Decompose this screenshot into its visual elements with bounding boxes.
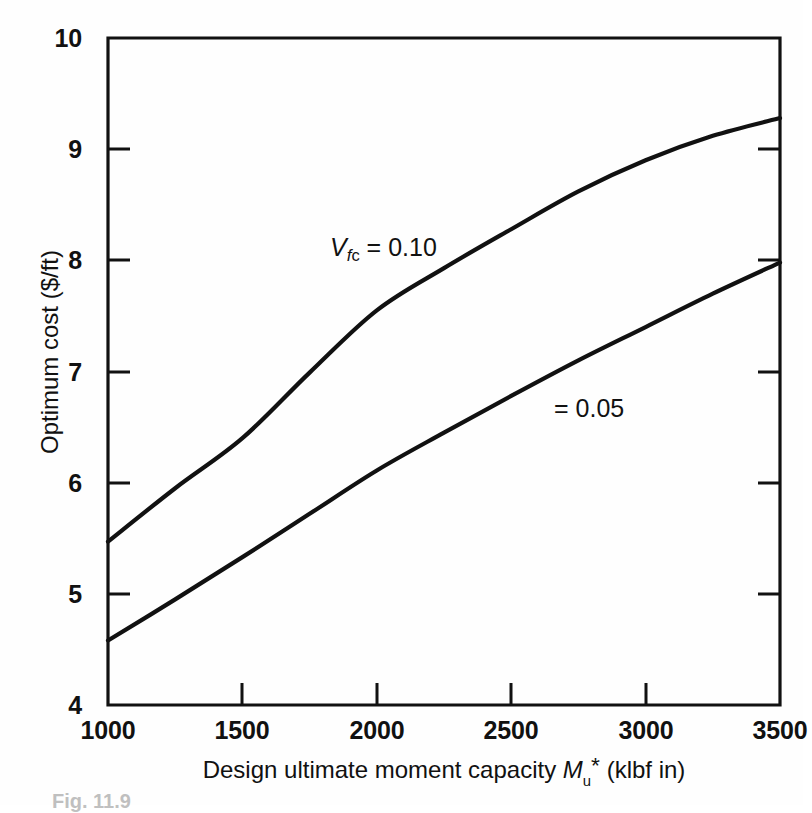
- y-tick-label-10: 10: [22, 24, 82, 53]
- y-axis-title: Optimum cost ($/ft): [36, 187, 64, 517]
- curve-vfc-005: [108, 263, 780, 641]
- annotation-lower-curve: = 0.05: [554, 394, 624, 423]
- x-tick-label-1000: 1000: [48, 716, 168, 745]
- annotation-upper-curve: Vfc = 0.10: [330, 233, 437, 266]
- annotation-lower-value: = 0.05: [554, 394, 624, 422]
- axis-frame: [108, 38, 780, 705]
- figure-caption: Fig. 11.9: [52, 790, 131, 813]
- y-tick-label-9: 9: [22, 135, 82, 164]
- y-tick-label-5: 5: [22, 580, 82, 609]
- y-axis-title-text: Optimum cost ($/ft): [36, 250, 63, 454]
- x-axis-title-lead: Design ultimate moment capacity: [203, 756, 563, 783]
- x-axis-title: Design ultimate moment capacity Mu* (klb…: [108, 752, 780, 789]
- x-tick-marks: [242, 683, 646, 705]
- y-tick-marks: [108, 149, 780, 594]
- x-tick-label-1500: 1500: [182, 716, 302, 745]
- x-tick-label-2500: 2500: [451, 716, 571, 745]
- annotation-symbol-sub-c: c: [351, 246, 359, 264]
- x-axis-symbol-subscript: u: [583, 773, 591, 789]
- x-axis-title-units: (klbf in): [600, 756, 685, 783]
- x-tick-label-3500: 3500: [720, 716, 812, 745]
- annotation-upper-value: = 0.10: [360, 233, 437, 261]
- x-axis-symbol: M: [563, 756, 583, 783]
- annotation-symbol-v: V: [330, 233, 347, 261]
- x-tick-label-2000: 2000: [317, 716, 437, 745]
- curve-vfc-010: [108, 118, 780, 542]
- x-axis-symbol-star: *: [591, 752, 600, 778]
- x-tick-label-3000: 3000: [586, 716, 706, 745]
